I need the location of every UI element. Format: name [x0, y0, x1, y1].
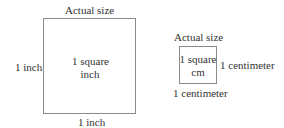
- square-cm-box: [179, 46, 217, 84]
- left-side-label: 1 inch: [15, 62, 42, 73]
- large-square-caption: Actual size: [65, 5, 114, 16]
- small-square-caption: Actual size: [174, 32, 223, 43]
- right-side-label: 1 centimeter: [220, 60, 275, 71]
- square-inch-label-line1: 1 square: [72, 56, 108, 67]
- square-cm-label-line2: cm: [178, 67, 218, 78]
- square-cm-label-line1: 1 square: [178, 54, 218, 65]
- bottom-side-label: 1 inch: [78, 117, 105, 128]
- bottom-side-label-cm: 1 centimeter: [173, 88, 228, 99]
- square-inch-label-line2: inch: [72, 69, 108, 80]
